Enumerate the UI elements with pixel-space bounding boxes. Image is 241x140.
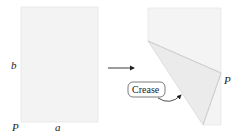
label-p-left: P — [11, 121, 19, 133]
label-b: b — [11, 59, 17, 71]
crease-callout: Crease — [128, 82, 181, 101]
crease-label: Crease — [132, 84, 160, 95]
folding-diagram: b a P P Crease — [0, 0, 241, 140]
unfolded-paper — [21, 7, 98, 122]
label-a: a — [55, 121, 61, 133]
label-p-right: P — [223, 74, 231, 86]
folded-paper — [148, 8, 221, 125]
